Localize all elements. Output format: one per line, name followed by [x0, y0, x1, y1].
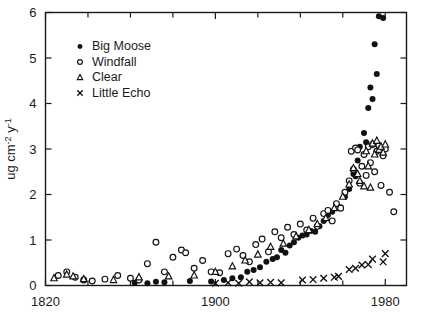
- data-point-big-moose: [367, 85, 373, 91]
- data-point-big-moose: [238, 274, 244, 280]
- data-point-big-moose: [153, 279, 159, 285]
- data-point-windfall: [355, 147, 361, 153]
- data-point-little-echo: [320, 275, 327, 282]
- data-point-big-moose: [187, 278, 193, 284]
- data-point-windfall: [329, 218, 335, 224]
- data-point-clear: [255, 251, 262, 257]
- y-tick-label: 6: [29, 5, 36, 20]
- legend-label: Windfall: [92, 55, 136, 69]
- data-point-little-echo: [310, 276, 317, 283]
- data-point-clear: [77, 74, 82, 79]
- data-point-little-echo: [246, 279, 253, 286]
- data-point-big-moose: [374, 71, 380, 77]
- y-tick-label: 2: [29, 187, 36, 202]
- legend-entry: Big Moose: [78, 39, 152, 53]
- y-tick-label: 5: [29, 51, 36, 66]
- legend-entry: Little Echo: [77, 86, 150, 100]
- data-point-windfall: [89, 278, 95, 284]
- data-point-big-moose: [274, 254, 280, 260]
- data-point-windfall: [272, 229, 278, 235]
- data-point-big-moose: [257, 264, 263, 270]
- data-point-windfall: [359, 163, 365, 169]
- y-axis-tick-labels: 0123456: [29, 5, 36, 293]
- y-tick-label: 1: [29, 233, 36, 248]
- data-point-big-moose: [355, 157, 361, 163]
- data-point-big-moose: [370, 96, 376, 102]
- data-point-windfall: [234, 246, 240, 252]
- data-point-big-moose: [291, 239, 297, 245]
- data-point-windfall: [391, 209, 397, 215]
- data-point-little-echo: [382, 250, 389, 257]
- data-point-big-moose: [380, 15, 386, 21]
- data-point-little-echo: [380, 259, 387, 266]
- legend-entry: Clear: [77, 70, 122, 84]
- data-point-big-moose: [251, 267, 257, 273]
- data-point-windfall: [153, 239, 159, 245]
- series-windfall: [55, 142, 396, 284]
- legend-label: Clear: [92, 70, 122, 84]
- data-point-windfall: [183, 250, 189, 256]
- data-point-windfall: [378, 183, 384, 189]
- data-point-windfall: [372, 169, 378, 175]
- data-point-big-moose: [263, 259, 269, 265]
- y-tick-label: 4: [29, 96, 36, 111]
- data-point-windfall: [191, 265, 197, 271]
- data-point-windfall: [363, 172, 369, 178]
- legend-label: Little Echo: [92, 86, 150, 100]
- x-axis-ticks: [46, 13, 386, 286]
- data-point-big-moose: [244, 269, 250, 275]
- data-point-clear: [70, 273, 77, 279]
- y-tick-label: 0: [29, 278, 36, 293]
- data-point-little-echo: [352, 265, 359, 272]
- data-point-big-moose: [161, 279, 167, 285]
- plot-canvas: 182019001980 0123456 ug cm-2 y-1 Big Moo…: [0, 0, 429, 319]
- data-point-windfall: [387, 189, 393, 195]
- data-point-windfall: [162, 269, 168, 275]
- data-point-windfall: [285, 224, 291, 230]
- data-point-little-echo: [346, 266, 353, 273]
- scatter-plot-figure: 182019001980 0123456 ug cm-2 y-1 Big Moo…: [0, 0, 429, 319]
- data-point-windfall: [78, 60, 83, 65]
- data-point-little-echo: [359, 262, 366, 269]
- data-point-big-moose: [78, 44, 83, 49]
- x-tick-label: 1980: [371, 294, 400, 309]
- data-point-windfall: [170, 254, 176, 260]
- legend: Big MooseWindfallClearLittle Echo: [77, 39, 151, 100]
- data-point-windfall: [325, 208, 331, 214]
- data-point-clear: [191, 272, 198, 278]
- y-axis-label-text: ug cm-2 y-1: [3, 118, 19, 180]
- data-point-little-echo: [369, 256, 376, 263]
- data-point-clear: [374, 137, 381, 143]
- y-axis-label: ug cm-2 y-1: [3, 118, 19, 180]
- data-point-windfall: [338, 205, 344, 211]
- data-point-windfall: [297, 221, 303, 227]
- data-point-clear: [382, 141, 389, 147]
- data-point-windfall: [128, 275, 134, 281]
- data-point-big-moose: [282, 250, 288, 256]
- data-point-big-moose: [365, 105, 371, 111]
- data-point-windfall: [145, 261, 151, 267]
- data-point-clear: [267, 243, 274, 249]
- data-point-little-echo: [267, 279, 274, 286]
- data-point-windfall: [253, 242, 259, 248]
- data-point-windfall: [102, 276, 108, 282]
- data-point-clear: [136, 274, 143, 280]
- data-point-windfall: [115, 273, 121, 279]
- data-point-windfall: [200, 258, 206, 264]
- data-point-windfall: [259, 236, 265, 242]
- data-point-little-echo: [299, 277, 306, 284]
- data-point-big-moose: [144, 280, 150, 286]
- data-point-clear: [229, 263, 236, 269]
- legend-entry: Windfall: [78, 55, 137, 69]
- y-tick-label: 3: [29, 142, 36, 157]
- data-point-little-echo: [335, 273, 342, 280]
- data-point-windfall: [225, 251, 231, 257]
- data-point-big-moose: [372, 41, 378, 47]
- data-point-big-moose: [361, 130, 367, 136]
- legend-label: Big Moose: [92, 39, 151, 53]
- x-tick-label: 1820: [31, 294, 60, 309]
- data-point-clear: [367, 184, 374, 190]
- data-point-little-echo: [77, 90, 82, 95]
- x-tick-label: 1900: [201, 294, 230, 309]
- data-point-little-echo: [365, 261, 372, 268]
